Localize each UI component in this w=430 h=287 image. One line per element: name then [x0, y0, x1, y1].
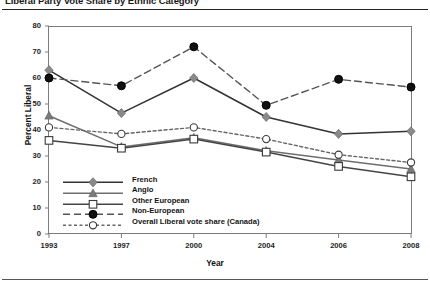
legend-key-swatch	[62, 206, 124, 217]
data-point	[407, 83, 415, 91]
data-point	[262, 148, 270, 156]
legend-item-label: Non-European	[132, 206, 184, 215]
legend-item-label: Anglo	[132, 185, 154, 194]
y-tick-label: 80	[15, 21, 41, 30]
data-point	[190, 43, 198, 51]
legend-key-swatch	[62, 216, 124, 227]
series-line	[49, 47, 411, 106]
series-non-european	[45, 43, 415, 110]
data-point	[190, 135, 198, 143]
data-point	[190, 73, 198, 82]
data-point	[45, 74, 53, 82]
y-tick-label: 70	[15, 47, 41, 56]
data-point	[45, 124, 52, 131]
x-tick-label: 2008	[391, 241, 430, 250]
data-point	[118, 130, 125, 137]
x-tick-label: 2006	[319, 241, 359, 250]
legend-item-label: Other European	[132, 196, 189, 205]
y-tick-label: 10	[15, 203, 41, 212]
data-point	[334, 129, 342, 138]
y-tick-label: 0	[15, 229, 41, 238]
legend-key-swatch	[62, 174, 124, 185]
data-point	[335, 75, 343, 83]
data-point	[407, 127, 415, 136]
data-point	[335, 151, 342, 158]
data-point	[117, 109, 125, 118]
legend-key-swatch	[62, 185, 124, 196]
x-axis-title: Year	[175, 258, 255, 268]
data-point	[117, 82, 125, 90]
legend-marker	[89, 221, 96, 228]
data-point	[45, 66, 53, 75]
data-point	[190, 124, 197, 131]
y-tick-label: 20	[15, 177, 41, 186]
x-tick-label: 2000	[174, 241, 214, 250]
x-tick-label: 1993	[29, 241, 69, 250]
legend-key-swatch	[62, 195, 124, 206]
data-point	[335, 163, 343, 171]
legend-item-label: French	[132, 175, 157, 184]
data-point	[263, 136, 270, 143]
data-point	[407, 173, 415, 181]
data-point	[45, 137, 53, 145]
series-line	[49, 116, 411, 169]
x-tick-label: 2004	[246, 241, 286, 250]
data-point	[118, 144, 126, 152]
legend-item-label: Overall Liberal vote share (Canada)	[132, 217, 259, 226]
legend-marker-icon	[62, 220, 124, 231]
series-line	[49, 70, 411, 134]
data-point	[407, 159, 414, 166]
data-point	[262, 112, 270, 121]
data-point	[45, 111, 53, 119]
y-axis-title: Percent Liberal	[23, 65, 33, 165]
x-tick-label: 1997	[101, 241, 141, 250]
chart-figure: Liberal Party Vote Share by Ethnic Categ…	[0, 0, 430, 287]
series-anglo	[45, 111, 415, 172]
data-point	[262, 101, 270, 109]
bottom-divider-rule	[2, 279, 428, 280]
